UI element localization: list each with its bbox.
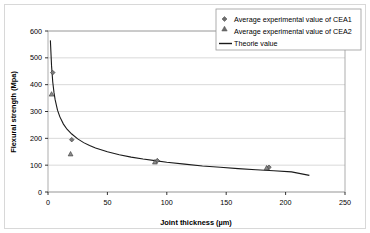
legend-label-theorie: Theorie value	[234, 39, 278, 48]
y-tick-label: 500	[30, 53, 42, 62]
x-tick-label: 50	[103, 198, 111, 207]
chart-plot-area: 0100200300400500600 050100150200250 Join…	[0, 0, 370, 233]
legend-label-cea1: Average experimental value of CEA1	[234, 15, 352, 24]
y-tick-label: 200	[30, 134, 42, 143]
y-tick-label: 0	[38, 188, 42, 197]
x-tick-label: 100	[161, 198, 173, 207]
series-cea2-markers	[49, 92, 269, 170]
x-axis-title: Joint thickness (µm)	[160, 218, 232, 227]
x-tick-label: 0	[46, 198, 50, 207]
chart-legend: Average experimental value of CEA1 Avera…	[216, 9, 361, 50]
y-axis: 0100200300400500600	[30, 27, 48, 197]
x-tick-label: 250	[339, 198, 351, 207]
x-tick-label: 150	[220, 198, 232, 207]
data-point-cea1	[50, 70, 55, 75]
legend-label-cea2: Average experimental value of CEA2	[234, 27, 352, 36]
y-tick-label: 600	[30, 27, 42, 36]
y-axis-title: Flexural strength (Mpa)	[9, 71, 18, 153]
y-tick-label: 300	[30, 107, 42, 116]
x-axis: 050100150200250	[46, 192, 351, 207]
theory-value-curve	[50, 40, 309, 175]
chart-container: 0100200300400500600 050100150200250 Join…	[0, 0, 370, 233]
series-cea1-markers	[50, 70, 271, 169]
data-point-cea2	[68, 151, 73, 155]
gridlines	[48, 31, 345, 192]
y-tick-label: 100	[30, 161, 42, 170]
x-tick-label: 200	[280, 198, 292, 207]
y-tick-label: 400	[30, 80, 42, 89]
data-point-cea2	[49, 92, 54, 96]
